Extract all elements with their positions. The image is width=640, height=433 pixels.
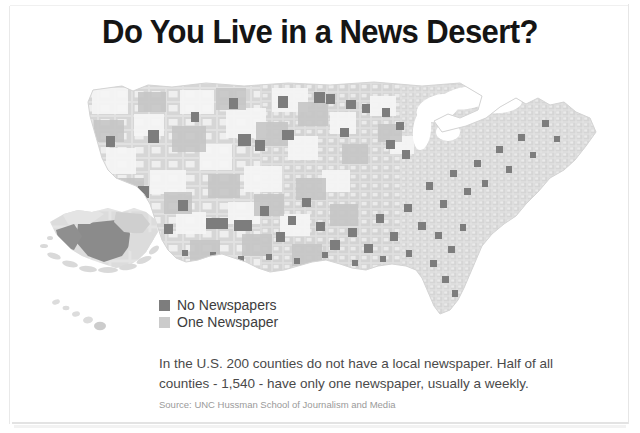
hawaii-inset — [51, 298, 106, 330]
summary-text: In the U.S. 200 counties do not have a l… — [159, 354, 579, 394]
page-edge-right — [628, 4, 629, 424]
page-edge-bottom — [12, 422, 628, 424]
page-edge-top — [10, 5, 628, 6]
page-title: Do You Live in a News Desert? — [19, 13, 621, 51]
legend-item-one-newspaper: One Newspaper — [159, 314, 359, 331]
map-legend: No Newspapers One Newspaper — [159, 297, 359, 331]
source-credit: Source: UNC Hussman School of Journalism… — [159, 398, 579, 411]
legend-swatch-no-newspapers — [159, 300, 170, 311]
legend-label-one-newspaper: One Newspaper — [177, 314, 278, 331]
legend-swatch-one-newspaper — [159, 317, 170, 328]
page-shadow-bottom — [14, 425, 626, 428]
legend-item-no-newspapers: No Newspapers — [159, 297, 359, 314]
legend-label-no-newspapers: No Newspapers — [177, 297, 277, 314]
page-edge-left — [9, 6, 10, 424]
scanned-page: Do You Live in a News Desert? — [0, 0, 640, 433]
